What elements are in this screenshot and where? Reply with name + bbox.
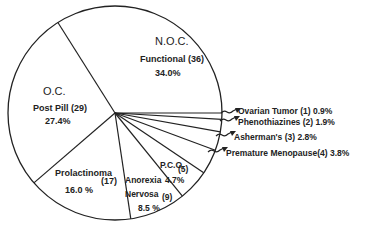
label-anorexia-pct: 8.5 % bbox=[138, 204, 160, 213]
label-anorexia-line2: Nervosa bbox=[125, 190, 159, 199]
label-anorexia-count: (9) bbox=[162, 193, 172, 202]
label-oc-group: O.C. bbox=[43, 86, 66, 97]
label-anorexia-line1: Anorexia bbox=[125, 176, 161, 185]
arrow-ovarian bbox=[221, 109, 237, 113]
label-noc-count: Functional (36) bbox=[140, 55, 204, 64]
label-oc-pct: 27.4% bbox=[45, 117, 71, 126]
label-ashermans: Asherman's (3) 2.8% bbox=[234, 133, 317, 142]
label-ovarian-tumor: Ovarian Tumor (1) 0.9% bbox=[238, 107, 332, 116]
label-prolactinoma-pct: 16.0 % bbox=[65, 186, 93, 195]
label-pco-pct: 4.7% bbox=[165, 176, 184, 185]
label-oc-count: Post Pill (29) bbox=[33, 104, 87, 113]
pie-slices bbox=[8, 6, 222, 220]
label-phenothiazines: Phenothiazines (2) 1.9% bbox=[238, 118, 335, 127]
label-noc-pct: 34.0% bbox=[155, 69, 181, 78]
label-pco-count: (5) bbox=[178, 165, 188, 174]
label-noc-group: N.O.C. bbox=[155, 36, 189, 47]
label-premature-menopause: Premature Menopause(4) 3.8% bbox=[226, 149, 349, 158]
label-prolactinoma-count: (17) bbox=[101, 177, 117, 186]
